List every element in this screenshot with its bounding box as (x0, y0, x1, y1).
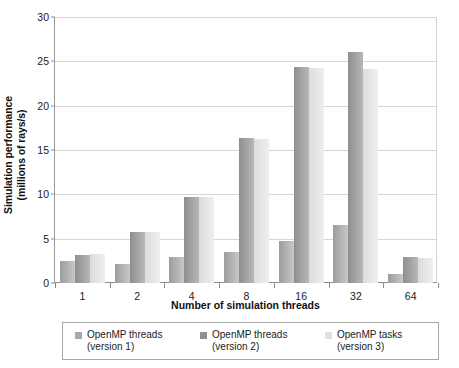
bar (184, 197, 199, 283)
plot-area: 051015202530 1248163264 (54, 17, 437, 283)
legend-label: OpenMP tasks(version 3) (337, 329, 402, 354)
bar (403, 257, 418, 283)
legend-item: OpenMP threads(version 1) (63, 329, 188, 354)
bar (60, 261, 75, 283)
bar-group (164, 17, 219, 283)
bar-group (274, 17, 329, 283)
chart-legend: OpenMP threads(version 1)OpenMP threads(… (62, 322, 439, 360)
x-axis-title: Number of simulation threads (54, 299, 437, 311)
bar (115, 264, 130, 283)
bar (309, 68, 324, 283)
bar (90, 254, 105, 283)
x-axis-tick-mark (219, 283, 220, 288)
bar-group (55, 17, 110, 283)
y-axis-title-line1: Simulation performance (2, 96, 15, 214)
bar (145, 232, 160, 283)
bar (363, 69, 378, 283)
legend-item: OpenMP threads(version 2) (188, 329, 313, 354)
legend-swatch-icon (200, 332, 207, 339)
bar (418, 258, 433, 283)
bar (130, 232, 145, 283)
bar (224, 252, 239, 283)
bar-group (110, 17, 165, 283)
x-axis-tick-mark (329, 283, 330, 288)
bar (279, 241, 294, 283)
bar (348, 52, 363, 283)
bar-group (329, 17, 384, 283)
legend-swatch-icon (75, 332, 82, 339)
bar (169, 257, 184, 283)
bar (254, 139, 269, 283)
legend-swatch-icon (325, 332, 332, 339)
bar (239, 138, 254, 283)
bar (199, 197, 214, 283)
bar-group (383, 17, 438, 283)
y-axis-title: Simulation performance (millions of rays… (0, 60, 30, 250)
x-axis-tick-mark (55, 283, 56, 288)
legend-item: OpenMP tasks(version 3) (313, 329, 438, 354)
x-axis-tick-mark (164, 283, 165, 288)
bar (294, 67, 309, 283)
x-axis-tick-mark (383, 283, 384, 288)
legend-label: OpenMP threads(version 1) (87, 329, 162, 354)
bar (388, 274, 403, 283)
bar (333, 225, 348, 283)
x-axis-tick-mark (438, 283, 439, 288)
bar-group (219, 17, 274, 283)
x-axis-tick-mark (110, 283, 111, 288)
chart-figure: Simulation performance (millions of rays… (0, 0, 459, 368)
y-axis-title-line2: (millions of rays/s) (15, 96, 28, 214)
legend-label: OpenMP threads(version 2) (212, 329, 287, 354)
x-axis-tick-mark (274, 283, 275, 288)
bar (75, 255, 90, 283)
